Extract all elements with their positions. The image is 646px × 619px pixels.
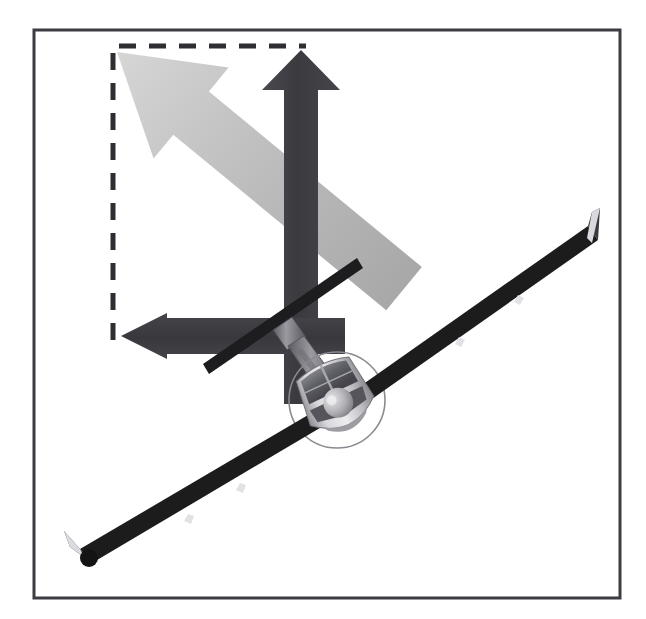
figure-border bbox=[34, 30, 620, 598]
figure-title: Lift vector resolved into vertical and h… bbox=[0, 0, 1, 1]
lift-diagram: LIFT bbox=[0, 0, 646, 619]
figure-canvas: LIFT bbox=[0, 0, 646, 619]
